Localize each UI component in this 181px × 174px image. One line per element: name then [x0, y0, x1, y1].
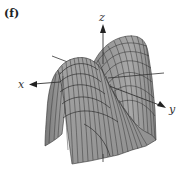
y-axis-label: y — [168, 103, 176, 116]
z-axis-arrowhead — [100, 24, 106, 33]
z-axis-label: z — [98, 11, 105, 24]
surface-plot: (f) — [0, 0, 181, 174]
panel-label: (f) — [4, 7, 19, 20]
y-axis-arrowhead — [157, 101, 166, 108]
x-axis-label: x — [18, 78, 25, 91]
x-axis-arrowhead — [29, 81, 37, 88]
